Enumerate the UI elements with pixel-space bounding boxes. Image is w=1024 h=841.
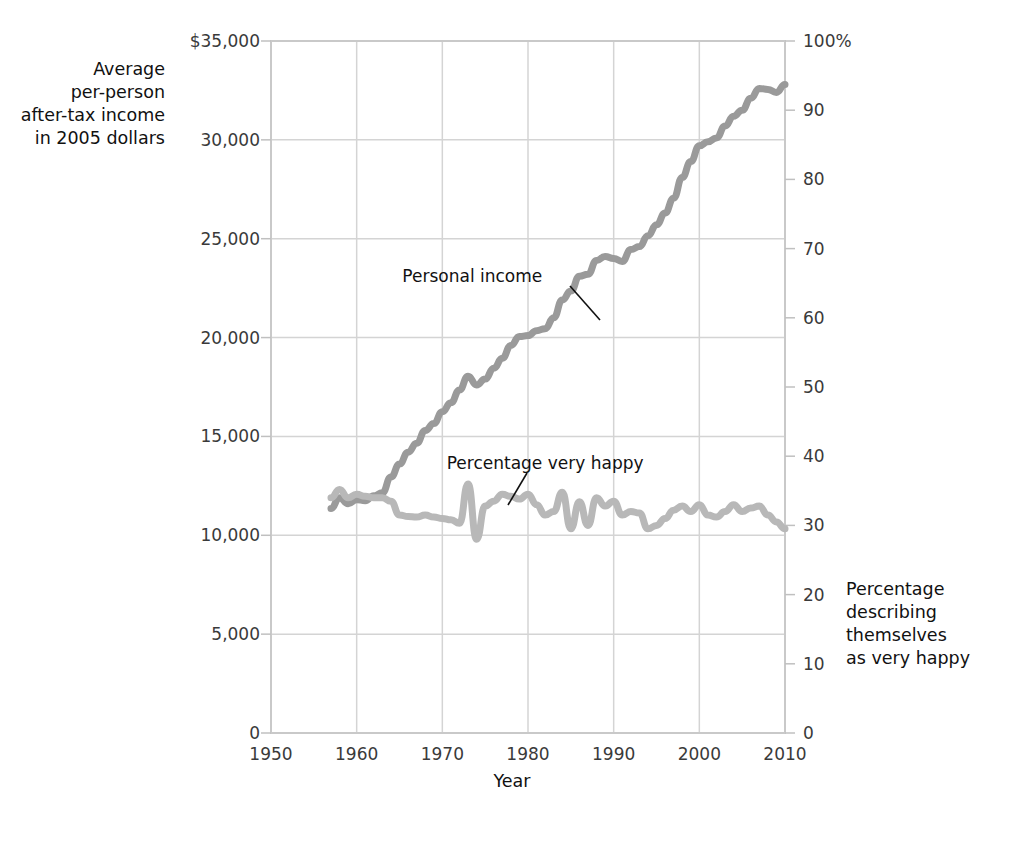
annotation-label-1: Personal income (402, 266, 542, 286)
y-left-tick-label: 10,000 (110, 525, 260, 545)
x-tick-label: 1960 (335, 744, 378, 764)
annotation-label-2: Percentage very happy (447, 453, 644, 473)
x-tick-label: 2010 (763, 744, 806, 764)
y-left-tick-label: $35,000 (110, 31, 260, 51)
y-right-tick-label: 10 (803, 654, 873, 674)
y-left-tick-label: 15,000 (110, 426, 260, 446)
plot-area (0, 0, 1024, 841)
x-tick-label: 1980 (506, 744, 549, 764)
y-right-tick-label: 70 (803, 239, 873, 259)
y-left-tick-label: 5,000 (110, 624, 260, 644)
series-line-1 (331, 85, 785, 509)
y-right-tick-label: 80 (803, 169, 873, 189)
x-tick-label: 1950 (249, 744, 292, 764)
y-right-tick-label: 30 (803, 515, 873, 535)
y-right-tick-label: 0 (803, 723, 873, 743)
annotation-leader-1 (570, 286, 600, 320)
y-right-tick-label: 100% (803, 31, 873, 51)
x-tick-label: 2000 (678, 744, 721, 764)
x-tick-label: 1990 (592, 744, 635, 764)
y-left-tick-label: 20,000 (110, 328, 260, 348)
y-left-tick-label: 25,000 (110, 229, 260, 249)
y-right-tick-label: 20 (803, 585, 873, 605)
y-left-tick-label: 0 (110, 723, 260, 743)
series-line-2 (331, 484, 785, 539)
y-right-tick-label: 60 (803, 308, 873, 328)
y-left-tick-label: 30,000 (110, 130, 260, 150)
x-tick-label: 1970 (421, 744, 464, 764)
y-right-tick-label: 50 (803, 377, 873, 397)
y-right-tick-label: 40 (803, 446, 873, 466)
chart-figure: Average per-person after-tax income in 2… (0, 0, 1024, 841)
y-right-tick-label: 90 (803, 100, 873, 120)
